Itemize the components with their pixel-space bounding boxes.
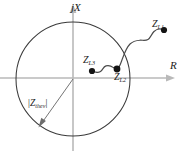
point-label-zl3-subscript: L3 [89, 59, 96, 66]
magnitude-bar-right: | [45, 98, 47, 108]
imaginary-axis-label-text: jX [71, 1, 81, 13]
impedance-plane-figure: jX R ZL1 ZL2 ZL3 |Zthev| [0, 0, 184, 151]
real-axis-label-text: R [170, 59, 177, 71]
point-marker-zl3 [89, 68, 95, 74]
point-label-zl2: ZL2 [114, 72, 126, 82]
point-label-zl3-symbol: Z [83, 54, 89, 65]
real-axis-arrowhead [166, 75, 175, 82]
thevenin-magnitude-label: |Zthev| [28, 99, 47, 109]
point-label-zl1: ZL1 [152, 19, 164, 29]
point-label-zl1-subscript: L1 [158, 23, 165, 30]
point-label-zl3: ZL3 [83, 55, 95, 65]
real-axis-label: R [170, 60, 177, 71]
point-label-zl2-symbol: Z [114, 71, 120, 82]
real-axis [0, 75, 175, 82]
thevenin-label-subscript: thev [35, 103, 45, 109]
point-label-zl1-symbol: Z [152, 18, 158, 29]
point-label-zl2-subscript: L2 [120, 76, 127, 83]
imaginary-axis-label: jX [71, 2, 81, 13]
load-impedance-trajectory [92, 29, 162, 72]
